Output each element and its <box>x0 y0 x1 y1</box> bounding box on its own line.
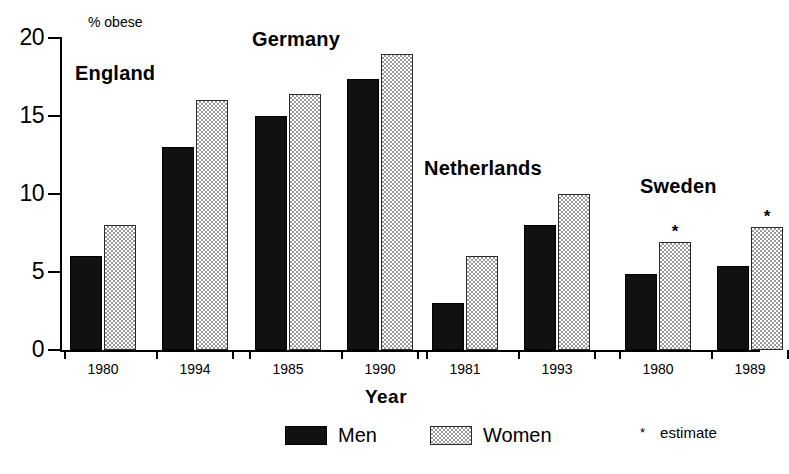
bar-sweden-1980-women: * <box>659 242 691 350</box>
x-tick-label-netherlands-1981: 1981 <box>439 361 491 377</box>
bar-sweden-1980-men <box>625 274 657 350</box>
x-tick-label-sweden-1989: 1989 <box>724 361 776 377</box>
bar-sweden-1989-men <box>717 266 749 350</box>
y-tick-label: 10 <box>0 182 44 205</box>
estimate-asterisk-icon: * <box>752 208 782 225</box>
bar-netherlands-1981-women <box>466 256 498 350</box>
x-tick-label-england-1994: 1994 <box>169 361 221 377</box>
bar-netherlands-1981-men <box>432 303 464 350</box>
x-tick-label-germany-1985: 1985 <box>262 361 314 377</box>
bar-england-1980-women <box>104 225 136 350</box>
x-tick-label-netherlands-1993: 1993 <box>531 361 583 377</box>
x-tick-mark <box>64 350 66 359</box>
legend-label-men: Men <box>338 424 377 446</box>
y-tick-label: 15 <box>0 104 44 127</box>
bar-netherlands-1993-men <box>524 225 556 350</box>
x-tick-label-england-1980: 1980 <box>77 361 129 377</box>
bar-germany-1990-men <box>347 79 379 350</box>
bar-netherlands-1993-women <box>558 194 590 350</box>
y-tick-mark <box>48 193 62 195</box>
bar-england-1994-men <box>162 147 194 350</box>
x-tick-mark <box>711 350 713 359</box>
y-tick-label: 20 <box>0 26 44 49</box>
x-axis-line <box>60 350 760 352</box>
x-tick-label-sweden-1980: 1980 <box>632 361 684 377</box>
asterisk-icon: * <box>640 424 645 442</box>
group-title-netherlands: Netherlands <box>424 157 542 179</box>
x-tick-mark <box>594 350 596 359</box>
group-title-germany: Germany <box>252 28 340 50</box>
x-tick-mark <box>619 350 621 359</box>
bar-germany-1990-women <box>381 54 413 350</box>
bar-england-1994-women <box>196 100 228 350</box>
cut-off-caption <box>0 464 772 474</box>
x-tick-mark <box>249 350 251 359</box>
y-tick-mark <box>48 115 62 117</box>
x-tick-mark <box>417 350 419 359</box>
legend-swatch-men-icon <box>285 426 327 445</box>
estimate-asterisk-icon: * <box>660 223 690 240</box>
legend-label-women: Women <box>483 424 552 446</box>
y-tick-label: 0 <box>0 338 44 361</box>
x-tick-mark <box>156 350 158 359</box>
group-title-sweden: Sweden <box>640 175 717 197</box>
y-axis-label: % obese <box>88 14 142 30</box>
bar-germany-1985-men <box>255 116 287 350</box>
bar-england-1980-men <box>70 256 102 350</box>
bar-germany-1985-women <box>289 94 321 350</box>
x-tick-mark <box>341 350 343 359</box>
legend: Men Women * estimate <box>0 424 772 454</box>
legend-label-estimate: estimate <box>660 424 717 442</box>
y-tick-label: 5 <box>0 260 44 283</box>
bar-sweden-1989-women: * <box>751 227 783 350</box>
x-axis-title: Year <box>0 386 772 408</box>
x-tick-label-germany-1990: 1990 <box>354 361 406 377</box>
legend-item-estimate-note: * estimate <box>640 424 717 442</box>
y-tick-mark <box>48 349 62 351</box>
legend-item-men: Men <box>285 424 377 446</box>
legend-swatch-women-icon <box>430 426 472 445</box>
x-tick-mark <box>518 350 520 359</box>
y-tick-mark <box>48 271 62 273</box>
group-title-england: England <box>75 62 155 84</box>
y-tick-mark <box>48 37 62 39</box>
legend-item-women: Women <box>430 424 552 446</box>
x-tick-mark <box>232 350 234 359</box>
x-tick-mark <box>426 350 428 359</box>
